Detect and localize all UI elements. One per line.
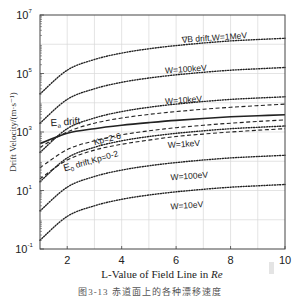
x-tick-label: 10 — [279, 254, 291, 266]
curve-label: W=1keV — [167, 138, 200, 150]
curve-label: W=100eV — [170, 170, 209, 183]
curve-label: ∇B drift,W=1MeV — [180, 30, 248, 45]
curve-dotted — [40, 126, 285, 182]
x-tick-label: 6 — [173, 254, 179, 266]
y-axis-label: Drift Velocity/(m·s⁻¹) — [8, 92, 18, 171]
watermark-mark — [269, 262, 274, 274]
y-tick-label: 101 — [16, 184, 32, 197]
x-axis-label: L-Value of Field Line in Re — [101, 268, 222, 280]
x-tick-label: 8 — [227, 254, 233, 266]
y-tick-label: 10-1 — [15, 242, 33, 255]
data-curves — [40, 38, 285, 240]
y-tick-label: 103 — [16, 125, 32, 138]
curve-label: W=10keV — [165, 94, 203, 107]
drift-velocity-chart: 10-1101103105107 246810 ∇B drift,W=1MeVW… — [0, 0, 295, 296]
curve-dotted — [40, 38, 285, 94]
figure-caption: 图3-13 赤道面上的各种漂移速度 — [78, 286, 222, 296]
y-tick-label: 107 — [16, 8, 32, 21]
x-tick-label: 4 — [119, 254, 125, 266]
y-tick-label: 105 — [16, 67, 32, 80]
curve-label: Ea drift — [50, 115, 80, 129]
curve-dashed — [40, 129, 285, 179]
curve-label: W=10eV — [170, 199, 204, 211]
curve-dotted — [40, 185, 285, 241]
x-tick-label: 2 — [64, 254, 70, 266]
